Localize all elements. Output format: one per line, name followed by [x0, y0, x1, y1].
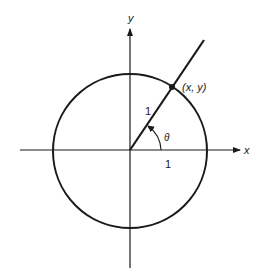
x-intercept-label: 1 — [165, 158, 171, 170]
angle-label: θ — [164, 132, 170, 143]
x-axis-label: x — [243, 144, 250, 156]
point-marker — [169, 84, 175, 90]
angle-arc — [148, 126, 161, 150]
point-label: (x, y) — [182, 81, 207, 93]
radius-label: 1 — [145, 105, 151, 117]
unit-circle-diagram: y x (x, y) 1 θ 1 — [0, 0, 262, 278]
y-axis-label: y — [127, 12, 135, 24]
